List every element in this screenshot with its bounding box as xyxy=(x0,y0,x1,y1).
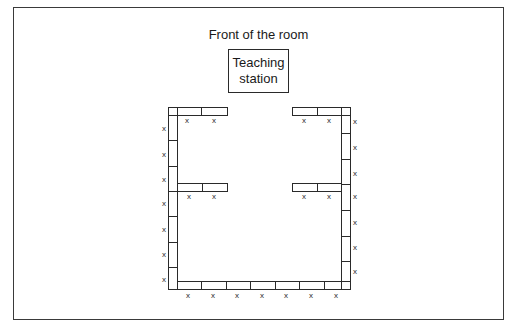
seat-marker: x xyxy=(162,175,166,184)
desk xyxy=(169,108,178,290)
seat-marker: x xyxy=(162,225,166,234)
seat-marker: x xyxy=(187,192,191,201)
seat-marker: x xyxy=(162,124,166,133)
classroom-diagram: Front of the room Teaching station xyxy=(0,0,517,333)
seat-marker: x xyxy=(302,192,306,201)
seat-marker: x xyxy=(185,116,189,125)
seat-marker: x xyxy=(302,116,306,125)
seating-layout: x x x x x x x x x x x x x x x x x x x x … xyxy=(0,0,517,333)
seat-marker: x xyxy=(212,192,216,201)
seat-marker: x xyxy=(162,275,166,284)
seat-marker: x xyxy=(162,199,166,208)
desk-group-middle-left-wing xyxy=(178,184,228,192)
seat-marker: x xyxy=(260,291,264,300)
seat-marker: x xyxy=(162,250,166,259)
seat-marker: x xyxy=(186,291,190,300)
desk-group-right-column xyxy=(342,108,351,290)
desk-group-middle-right-wing xyxy=(293,184,342,192)
seat-marker: x xyxy=(353,169,357,178)
seat-marker: x xyxy=(353,243,357,252)
seat-marker: x xyxy=(235,291,239,300)
desk-group-bottom-row xyxy=(178,282,351,290)
seat-marker: x xyxy=(327,192,331,201)
seat-marker: x xyxy=(353,143,357,152)
seat-marker: x xyxy=(309,291,313,300)
seat-marker: x xyxy=(211,291,215,300)
seat-marker: x xyxy=(284,291,288,300)
seat-marker: x xyxy=(162,150,166,159)
seat-marker: x xyxy=(353,218,357,227)
seat-marker: x xyxy=(212,116,216,125)
desk-group-left-column xyxy=(169,108,178,290)
desk xyxy=(342,108,351,290)
seat-markers: x x x x x x x x x x x x x x x x x x x x … xyxy=(162,116,357,300)
seat-marker: x xyxy=(327,116,331,125)
seat-marker: x xyxy=(334,291,338,300)
seat-marker: x xyxy=(353,117,357,126)
seat-marker: x xyxy=(353,267,357,276)
seat-marker: x xyxy=(353,192,357,201)
